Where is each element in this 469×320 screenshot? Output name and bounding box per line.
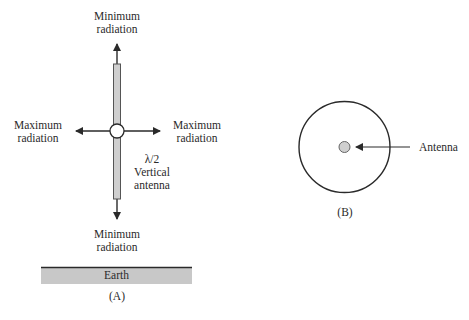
label-line: Maximum <box>8 119 68 132</box>
label-line: antenna <box>124 179 180 192</box>
wavelength-label: λ/2 <box>124 153 180 166</box>
label-line: radiation <box>167 132 227 145</box>
label-line: Vertical <box>124 166 180 179</box>
antenna-top-view-icon <box>339 142 350 153</box>
right-maximum-radiation-label: Maximum radiation <box>167 119 227 145</box>
label-line: radiation <box>87 241 147 254</box>
left-maximum-radiation-label: Maximum radiation <box>8 119 68 145</box>
caption-b: (B) <box>324 206 366 219</box>
label-line: Minimum <box>87 228 147 241</box>
label-line: Minimum <box>87 10 147 23</box>
antenna-pointer-label: Antenna <box>419 141 467 154</box>
label-line: radiation <box>8 132 68 145</box>
earth-label: Earth <box>41 269 192 282</box>
caption-a: (A) <box>96 290 138 303</box>
label-line: radiation <box>87 23 147 36</box>
bottom-minimum-radiation-label: Minimum radiation <box>87 228 147 254</box>
label-line: Maximum <box>167 119 227 132</box>
top-minimum-radiation-label: Minimum radiation <box>87 10 147 36</box>
radiation-pattern-top-view <box>299 102 410 193</box>
feed-point-icon <box>110 124 124 138</box>
antenna-description-label: λ/2 Vertical antenna <box>124 153 180 192</box>
